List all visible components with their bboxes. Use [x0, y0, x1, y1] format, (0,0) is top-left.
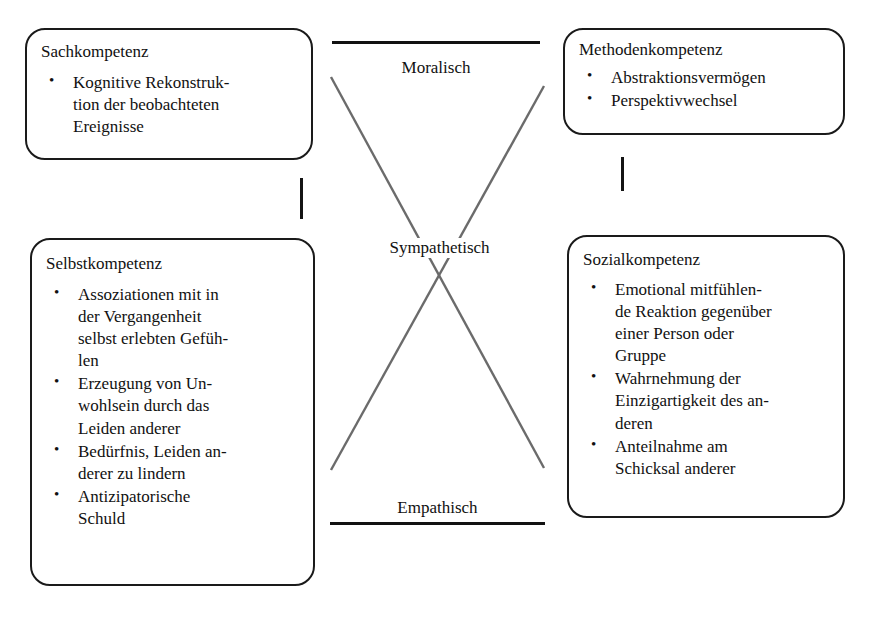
list-item: Bedürfnis, Leiden an- derer zu lindern	[44, 441, 309, 485]
list-item: Perspektivwechsel	[577, 90, 839, 112]
box-sozialkompetenz: Sozialkompetenz Emotional mitfühlen- de …	[567, 235, 845, 518]
connector-left-vertical	[300, 178, 303, 219]
diagram-canvas: Sachkompetenz Kognitive Rekonstruk- tion…	[0, 0, 870, 618]
box-sozialkompetenz-title: Sozialkompetenz	[583, 250, 700, 271]
box-selbstkompetenz: Selbstkompetenz Assoziationen mit in der…	[30, 238, 315, 586]
list-item: Anteilnahme am Schicksal anderer	[581, 436, 839, 480]
list-item: Assoziationen mit in der Vergangenheit s…	[44, 284, 309, 372]
connector-right-vertical	[621, 157, 624, 191]
axis-bar-top	[332, 41, 540, 44]
axis-label-empathisch: Empathisch	[330, 498, 545, 518]
list-item: Antizipatorische Schuld	[44, 486, 309, 530]
box-methodenkompetenz: Methodenkompetenz Abstraktionsvermögen P…	[563, 28, 845, 135]
box-sozialkompetenz-bullets: Emotional mitfühlen- de Reaktion gegenüb…	[581, 279, 839, 481]
box-sachkompetenz-title: Sachkompetenz	[41, 42, 149, 63]
list-item: Abstraktionsvermögen	[577, 67, 839, 89]
list-item: Emotional mitfühlen- de Reaktion gegenüb…	[581, 279, 839, 367]
axis-label-sympathetisch: Sympathetisch	[332, 238, 547, 258]
box-selbstkompetenz-bullets: Assoziationen mit in der Vergangenheit s…	[44, 284, 309, 531]
box-methodenkompetenz-bullets: Abstraktionsvermögen Perspektivwechsel	[577, 67, 839, 113]
box-methodenkompetenz-title: Methodenkompetenz	[579, 40, 723, 61]
box-selbstkompetenz-title: Selbstkompetenz	[46, 254, 162, 275]
box-sachkompetenz-bullets: Kognitive Rekonstruk- tion der beobachte…	[39, 72, 307, 139]
list-item: Erzeugung von Un- wohlsein durch das Lei…	[44, 373, 309, 439]
box-sachkompetenz: Sachkompetenz Kognitive Rekonstruk- tion…	[25, 28, 313, 160]
axis-label-moralisch: Moralisch	[332, 58, 540, 78]
axis-bar-bottom	[330, 522, 545, 525]
list-item: Wahrnehmung der Einzigartigkeit des an- …	[581, 368, 839, 434]
list-item: Kognitive Rekonstruk- tion der beobachte…	[39, 72, 307, 138]
